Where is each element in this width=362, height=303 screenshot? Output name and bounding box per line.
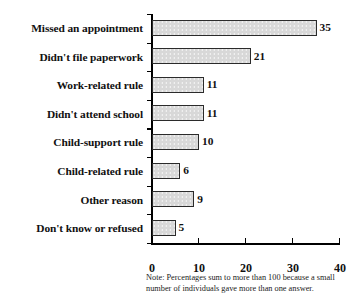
bar [152, 48, 251, 64]
category-label: Work-related rule [0, 71, 148, 100]
value-axis-tick [245, 238, 246, 244]
bar-value-label: 5 [179, 219, 185, 236]
chart-note-line: Note: Percentages sum to more than 100 b… [146, 273, 358, 284]
plot-area: 35 21 11 11 10 6 9 5 0 [152, 14, 340, 243]
bar [152, 163, 180, 179]
bar-value-label: 10 [202, 133, 213, 150]
bar-value-label: 11 [207, 105, 218, 122]
bar-value-label: 9 [197, 191, 203, 208]
category-label: Child-support rule [0, 128, 148, 157]
value-axis-tick [292, 238, 293, 244]
chart-note-line: number of individuals gave more than one… [146, 284, 358, 295]
category-axis-tick [147, 214, 152, 215]
bar [152, 220, 176, 236]
bar-value-label: 11 [207, 76, 218, 93]
value-axis-tick [151, 238, 152, 244]
category-axis-labels: Missed an appointment Didn't file paperw… [0, 14, 148, 243]
bar [152, 105, 204, 121]
category-label: Child-related rule [0, 157, 148, 186]
category-label: Don't know or refused [0, 214, 148, 243]
category-label: Other reason [0, 186, 148, 215]
category-label: Missed an appointment [0, 14, 148, 43]
bar [152, 134, 199, 150]
category-axis-tick [147, 186, 152, 187]
bar [152, 20, 317, 36]
value-axis-tick [339, 238, 340, 244]
bar-value-label: 35 [320, 19, 331, 36]
category-axis-tick [147, 43, 152, 44]
category-axis-tick [147, 128, 152, 129]
category-axis-tick [147, 157, 152, 158]
category-axis-tick [147, 14, 152, 15]
bar-value-label: 6 [183, 162, 189, 179]
bar-value-label: 21 [254, 48, 265, 65]
category-axis-tick [147, 100, 152, 101]
category-label: Didn't attend school [0, 100, 148, 129]
bar-chart: Missed an appointment Didn't file paperw… [0, 0, 362, 303]
bar [152, 77, 204, 93]
category-label: Didn't file paperwork [0, 43, 148, 72]
category-axis-tick [147, 71, 152, 72]
bar [152, 191, 194, 207]
value-axis-tick [198, 238, 199, 244]
chart-note: Note: Percentages sum to more than 100 b… [146, 273, 358, 294]
